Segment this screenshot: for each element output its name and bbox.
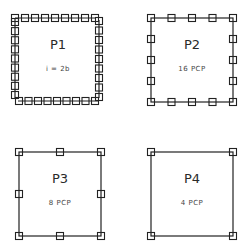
panel-p2-subtitle: 16 PCP	[152, 65, 232, 73]
panel-p2-title: P2	[152, 37, 232, 52]
panel-p4-border	[151, 152, 233, 236]
panel-p2-border	[151, 18, 233, 102]
panel-p3-border	[19, 152, 101, 236]
panel-p4-subtitle: 4 PCP	[152, 199, 232, 207]
panel-p1-subtitle: i = 2b	[18, 65, 98, 73]
panel-p4-title: P4	[152, 171, 232, 186]
panel-p1-title: P1	[18, 37, 98, 52]
panel-p3-subtitle: 8 PCP	[20, 199, 100, 207]
panel-p3-title: P3	[20, 171, 100, 186]
